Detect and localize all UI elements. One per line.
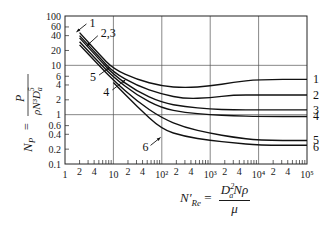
x-tick-label: 2 [125, 166, 130, 177]
power-number-chart: 0.10.20.40.6124610204060100124102410²241… [0, 0, 329, 230]
x-tick-label: 2 [77, 166, 82, 177]
x-tick-label: 10⁴ [252, 169, 266, 180]
y-tick-label: 0.6 [49, 120, 62, 131]
curve-label-5: 5 [90, 70, 96, 84]
x-tick-label: 2 [222, 166, 227, 177]
curve-label-right: 2 [313, 88, 319, 102]
y-tick-label: 60 [51, 21, 61, 32]
curve-label-2-3: 2,3 [101, 26, 116, 40]
x-tick-label: 10³ [204, 169, 217, 180]
y-tick-label: 6 [56, 71, 61, 82]
x-tick-label: 4 [92, 166, 97, 177]
y-tick-label: 100 [46, 11, 61, 22]
x-tick-label: 10⁵ [300, 169, 314, 180]
curve-label-1: 1 [89, 16, 95, 30]
y-tick-label: 2 [56, 94, 61, 105]
x-tick-label: 2 [174, 166, 179, 177]
y-tick-label: 20 [51, 45, 61, 56]
x-axis-label: N′Re = D2aNρ μ [180, 182, 250, 217]
y-axis-label: NP = P ρN³Da5 [6, 40, 46, 150]
y-tick-label: 1 [56, 109, 61, 120]
y-tick-label: 0.2 [49, 144, 62, 155]
x-tick-label: 1 [63, 169, 68, 180]
svg-text:P: P [13, 94, 27, 103]
x-tick-label: 4 [140, 166, 145, 177]
curve-label-4: 4 [103, 85, 109, 99]
curve-label-6: 6 [143, 140, 149, 154]
x-label-lhs: N′Re [180, 190, 201, 205]
x-tick-label: 4 [188, 166, 193, 177]
x-tick-label: 10² [155, 169, 168, 180]
curve-label-right: 4 [313, 109, 319, 123]
y-tick-label: 10 [51, 60, 61, 71]
svg-text:=: = [20, 123, 34, 130]
x-label-fraction: D2aNρ μ [219, 182, 250, 217]
y-tick-label: 0.1 [49, 159, 62, 170]
x-tick-label: 2 [271, 166, 276, 177]
curve-label-right: 1 [313, 72, 319, 86]
x-tick-label: 4 [285, 166, 290, 177]
curve-label-right: 6 [313, 140, 319, 154]
svg-text:ρN³Da5: ρN³Da5 [27, 87, 44, 116]
svg-text:NP: NP [20, 137, 37, 153]
x-tick-label: 10 [108, 169, 118, 180]
x-tick-label: 4 [237, 166, 242, 177]
